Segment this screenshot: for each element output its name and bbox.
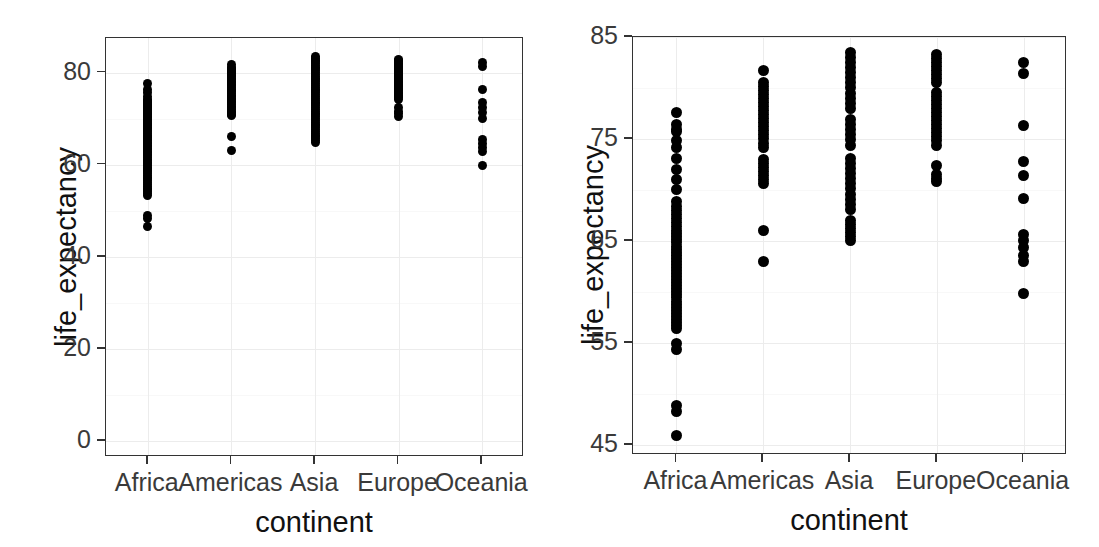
y-axis-tick-label: 0 xyxy=(77,427,91,452)
x-axis-tick-label-asia: Asia xyxy=(290,470,339,495)
data-point xyxy=(671,184,682,195)
x-axis-title-left: continent xyxy=(255,508,373,537)
x-axis-tick-label-asia: Asia xyxy=(825,468,874,493)
plot-area-left xyxy=(105,37,523,456)
y-axis-tick-label: 45 xyxy=(590,431,618,456)
x-axis-tick-mark xyxy=(935,454,937,462)
y-axis-tick-mark xyxy=(97,439,105,441)
data-point xyxy=(931,176,942,187)
x-axis-tick-mark xyxy=(848,454,850,462)
x-axis-tick-mark xyxy=(313,456,315,464)
data-point xyxy=(758,225,769,236)
gridline-horizontal-major xyxy=(106,165,522,166)
data-point xyxy=(758,256,769,267)
data-point xyxy=(671,142,682,153)
data-point xyxy=(845,204,856,215)
data-point xyxy=(1018,120,1029,131)
y-axis-tick-label: 40 xyxy=(63,243,91,268)
x-axis-tick-mark xyxy=(761,454,763,462)
x-axis-tick-mark xyxy=(675,454,677,462)
data-point xyxy=(671,406,682,417)
data-point xyxy=(143,222,152,231)
data-point xyxy=(758,65,769,76)
data-point xyxy=(1018,57,1029,68)
data-point xyxy=(478,85,487,94)
y-axis-tick-label: 75 xyxy=(590,125,618,150)
x-axis-tick-label-europe: Europe xyxy=(895,468,976,493)
x-axis-tick-mark xyxy=(146,456,148,464)
gridline-horizontal-major xyxy=(106,257,522,258)
y-axis-tick-label: 80 xyxy=(63,59,91,84)
y-axis-tick-label: 20 xyxy=(63,335,91,360)
x-axis-tick-label-africa: Africa xyxy=(115,470,179,495)
data-point xyxy=(931,140,942,151)
y-axis-tick-mark xyxy=(97,255,105,257)
data-point xyxy=(671,344,682,355)
y-axis-tick-mark xyxy=(624,443,632,445)
gridline-horizontal-major xyxy=(633,37,1065,38)
x-axis-tick-mark xyxy=(480,456,482,464)
y-axis-tick-mark xyxy=(624,239,632,241)
gridline-horizontal-minor xyxy=(633,292,1065,293)
data-point xyxy=(1018,170,1029,181)
gridline-horizontal-minor xyxy=(633,394,1065,395)
data-point xyxy=(758,178,769,189)
x-axis-tick-mark xyxy=(397,456,399,464)
data-point xyxy=(478,114,487,123)
x-axis-tick-label-oceania: Oceania xyxy=(976,468,1069,493)
data-point xyxy=(1018,193,1029,204)
x-axis-tick-label-europe: Europe xyxy=(357,470,438,495)
x-axis-tick-mark xyxy=(230,456,232,464)
x-axis-tick-label-americas: Americas xyxy=(178,470,282,495)
panel-right: life_expectancy continent 4555657585Afri… xyxy=(549,0,1099,547)
data-point xyxy=(1018,256,1029,267)
data-point xyxy=(478,147,487,156)
gridline-horizontal-minor xyxy=(106,395,522,396)
data-point xyxy=(671,153,682,164)
panel-left: life_expectancy continent 020406080Afric… xyxy=(0,0,550,547)
x-axis-tick-label-africa: Africa xyxy=(643,468,707,493)
gridline-horizontal-major xyxy=(633,445,1065,446)
y-axis-tick-label: 55 xyxy=(590,329,618,354)
data-point xyxy=(227,146,236,155)
plot-area-right xyxy=(632,36,1066,454)
data-point xyxy=(758,142,769,153)
gridline-horizontal-minor xyxy=(106,303,522,304)
y-axis-tick-mark xyxy=(97,163,105,165)
data-point xyxy=(478,161,487,170)
gridline-horizontal-major xyxy=(106,441,522,442)
x-axis-tick-mark xyxy=(1022,454,1024,462)
data-point xyxy=(478,62,487,71)
y-axis-tick-mark xyxy=(624,35,632,37)
y-axis-tick-mark xyxy=(624,341,632,343)
data-point xyxy=(394,112,403,121)
y-axis-tick-label: 65 xyxy=(590,227,618,252)
data-point xyxy=(845,103,856,114)
data-point xyxy=(227,132,236,141)
x-axis-tick-label-americas: Americas xyxy=(710,468,814,493)
data-point xyxy=(311,138,320,147)
y-axis-tick-mark xyxy=(97,347,105,349)
data-point xyxy=(1018,68,1029,79)
data-point xyxy=(845,140,856,151)
data-point xyxy=(143,191,152,200)
gridline-horizontal-major xyxy=(106,349,522,350)
data-point xyxy=(671,107,682,118)
y-axis-tick-mark xyxy=(624,137,632,139)
figure-two-panel-scatter: life_expectancy continent 020406080Afric… xyxy=(0,0,1099,547)
data-point xyxy=(671,430,682,441)
gridline-horizontal-minor xyxy=(106,211,522,212)
x-axis-title-right: continent xyxy=(790,506,908,535)
x-axis-tick-label-oceania: Oceania xyxy=(435,470,528,495)
gridline-horizontal-major xyxy=(633,343,1065,344)
data-point xyxy=(845,235,856,246)
y-axis-tick-mark xyxy=(97,71,105,73)
y-axis-tick-label: 85 xyxy=(590,23,618,48)
y-axis-tick-label: 60 xyxy=(63,151,91,176)
data-point xyxy=(1018,288,1029,299)
data-point xyxy=(671,323,682,334)
data-point xyxy=(1018,156,1029,167)
